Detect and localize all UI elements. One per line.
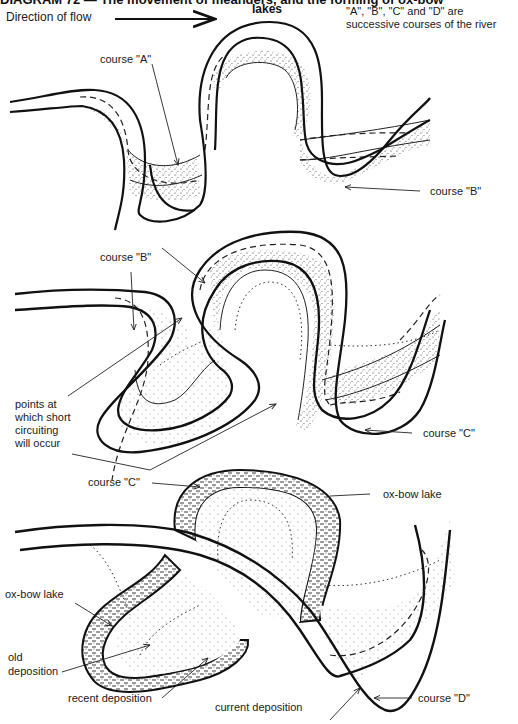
- deposition-area: [300, 120, 430, 183]
- label-short-circuit-line1: points at: [15, 398, 57, 411]
- label-course-c: course "C": [88, 476, 140, 489]
- deposition-area: [82, 106, 200, 201]
- label-ox-bow-lake-left: ox-bow lake: [5, 588, 64, 601]
- panel-stage-2: [15, 232, 445, 480]
- current-deposition-pointer: [330, 688, 360, 720]
- label-current-deposition: current deposition: [215, 701, 302, 714]
- label-old-deposition-line1: old: [8, 651, 23, 664]
- label-course-c: course "C": [423, 427, 475, 440]
- course-a-bank: [226, 62, 298, 130]
- course-b-bank-inner: [10, 106, 124, 230]
- label-course-a: course "A": [100, 53, 151, 66]
- label-old-deposition-line2: deposition: [8, 665, 58, 678]
- label-short-circuit-line4: will occur: [15, 437, 60, 450]
- flow-direction-label: Direction of flow: [6, 11, 91, 24]
- label-course-b: course "B": [100, 251, 151, 264]
- label-course-b: course "B": [430, 185, 481, 198]
- ox-bow-lake-pointer: [330, 494, 370, 496]
- label-course-d: course "D": [418, 692, 470, 705]
- label-short-circuit-line3: circuiting: [15, 424, 58, 437]
- course-b-pointer: [131, 272, 134, 330]
- panel-stage-3: [15, 470, 455, 720]
- legend-note: "A", "B", "C" and "D" are successive cou…: [346, 5, 511, 31]
- diagram-title-continued: lakes: [252, 2, 282, 16]
- label-recent-deposition: recent deposition: [68, 692, 152, 705]
- old-deposition-contour: [235, 282, 302, 360]
- label-short-circuit-line2: which short: [15, 411, 71, 424]
- course-a-pointer: [152, 64, 178, 165]
- course-b-bank-outer: [10, 22, 430, 222]
- meander-diagram: [0, 0, 518, 724]
- panel-stage-1: [10, 22, 430, 230]
- course-b-bank: [220, 270, 308, 420]
- deposition-area: [320, 310, 440, 405]
- course-b-pointer: [345, 187, 420, 191]
- label-ox-bow-lake-right: ox-bow lake: [383, 488, 442, 501]
- course-b-pointer: [162, 248, 205, 283]
